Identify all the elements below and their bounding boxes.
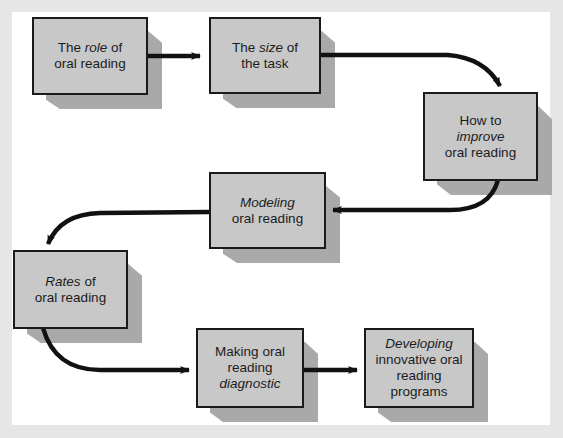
node-label: Rates oforal reading — [31, 274, 110, 306]
node-label: Modelingoral reading — [228, 195, 307, 227]
arrow-improve-to-modeling — [333, 180, 498, 210]
node-developing-programs: Developinginnovative oralreading program… — [364, 328, 474, 408]
node-modeling-oral-reading: Modelingoral reading — [209, 172, 326, 249]
node-rates-of-oral-reading: Rates oforal reading — [13, 250, 128, 329]
node-how-to-improve: How toimproveoral reading — [423, 92, 538, 181]
node-label: How toimproveoral reading — [441, 113, 520, 161]
node-label: Making oralreadingdiagnostic — [211, 344, 289, 392]
node-role-of-oral-reading: The role oforal reading — [32, 17, 148, 95]
node-label: The role oforal reading — [50, 40, 129, 72]
arrow-modeling-to-rates — [48, 212, 209, 244]
node-making-diagnostic: Making oralreadingdiagnostic — [196, 328, 304, 408]
arrow-size-to-improve — [320, 55, 500, 86]
node-size-of-task: The size ofthe task — [209, 17, 321, 94]
node-label: The size ofthe task — [228, 40, 302, 72]
arrow-rates-to-diagnostic — [43, 328, 189, 370]
node-label: Developinginnovative oralreading program… — [366, 336, 472, 400]
